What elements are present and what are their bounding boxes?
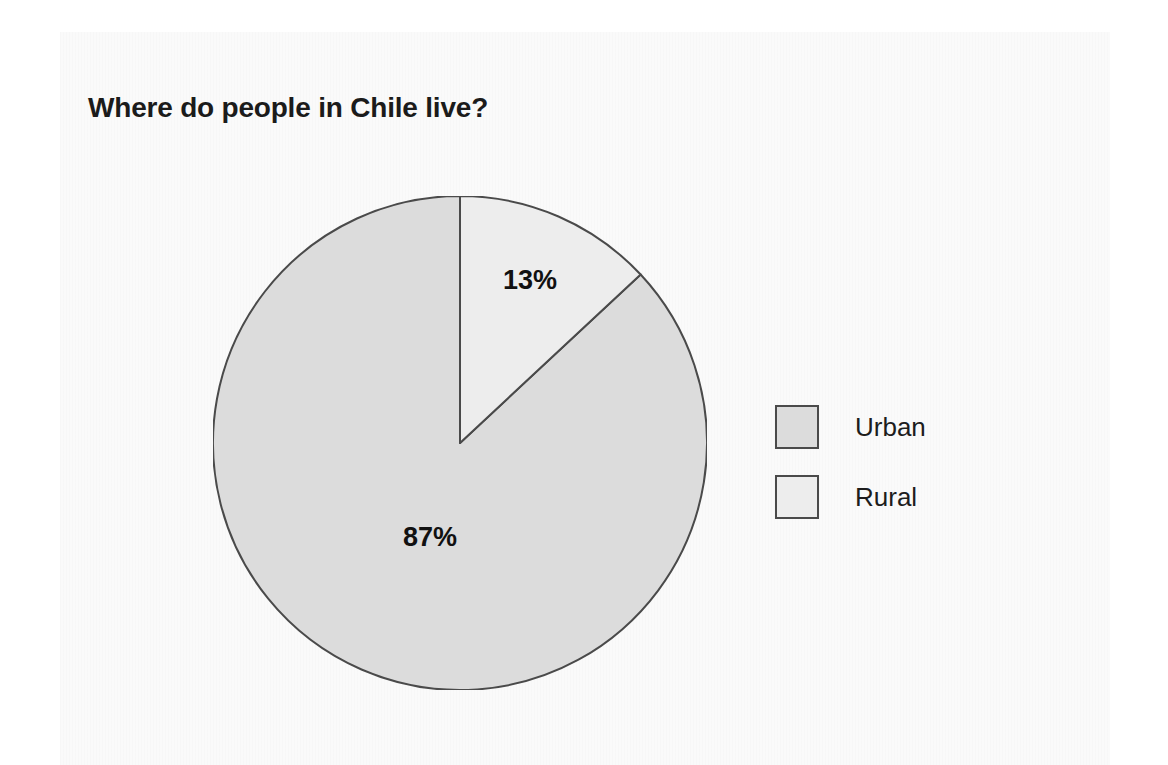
- legend-swatch-rural: [775, 475, 819, 519]
- pie-label-urban: 87%: [403, 522, 457, 553]
- chart-title: Where do people in Chile live?: [88, 92, 488, 124]
- legend-label-urban: Urban: [855, 412, 926, 443]
- legend-item-rural[interactable]: Rural: [775, 462, 1025, 532]
- screenshot-canvas: Where do people in Chile live? 13% 87% U…: [0, 0, 1168, 765]
- legend-label-rural: Rural: [855, 482, 917, 513]
- legend-item-urban[interactable]: Urban: [775, 392, 1025, 462]
- pie-chart: [213, 196, 707, 690]
- legend-swatch-urban: [775, 405, 819, 449]
- pie-chart-svg: [213, 196, 707, 690]
- pie-label-rural: 13%: [503, 265, 557, 296]
- chart-legend: Urban Rural: [775, 392, 1025, 532]
